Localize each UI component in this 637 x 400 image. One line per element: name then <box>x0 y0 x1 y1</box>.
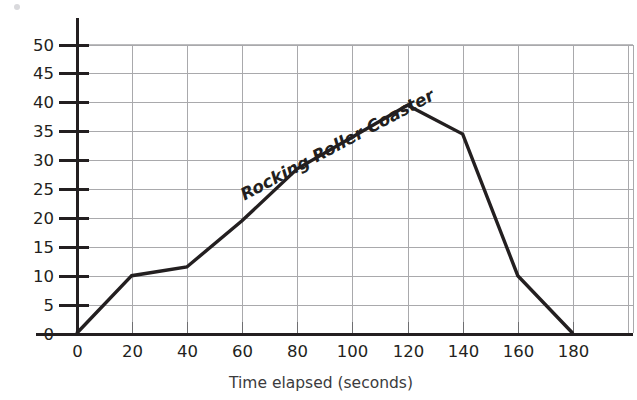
chart-canvas: 05101520253035404550 0204060801001201401… <box>0 0 637 400</box>
x-tick-label-140: 140 <box>448 342 480 361</box>
y-tick-label-15: 15 <box>33 238 54 257</box>
x-tick-label-120: 120 <box>393 342 425 361</box>
line-chart: 05101520253035404550 0204060801001201401… <box>0 0 637 400</box>
x-tick-label-100: 100 <box>337 342 369 361</box>
y-tick-label-30: 30 <box>33 151 54 170</box>
x-tick-label-60: 60 <box>232 342 253 361</box>
y-tick-label-50: 50 <box>33 36 54 55</box>
y-tick-label-35: 35 <box>33 122 54 141</box>
scan-artifact <box>14 4 20 10</box>
chart-background <box>0 0 637 400</box>
x-tick-label-80: 80 <box>287 342 308 361</box>
y-tick-label-20: 20 <box>33 209 54 228</box>
y-tick-label-45: 45 <box>33 64 54 83</box>
x-tick-label-20: 20 <box>122 342 143 361</box>
x-tick-label-40: 40 <box>177 342 198 361</box>
x-axis-title: Time elapsed (seconds) <box>228 374 413 392</box>
x-tick-label-160: 160 <box>503 342 535 361</box>
y-tick-label-10: 10 <box>33 267 54 286</box>
y-tick-label-25: 25 <box>33 180 54 199</box>
y-tick-label-40: 40 <box>33 93 54 112</box>
x-tick-label-180: 180 <box>558 342 590 361</box>
y-tick-label-5: 5 <box>44 296 55 315</box>
x-tick-label-0: 0 <box>72 342 83 361</box>
